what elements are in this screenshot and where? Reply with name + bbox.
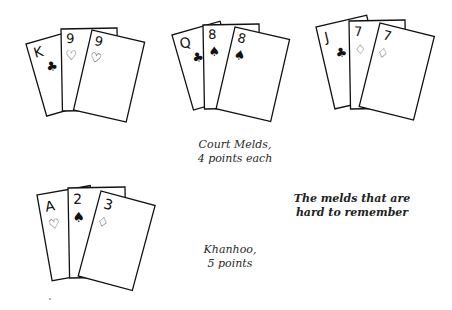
svg-text:7: 7 [354,24,363,39]
khanhoo-caption-line1: Khanhoo, [200,243,260,257]
court-melds-caption: Court Melds, 4 points each [190,138,280,166]
card-fan: K ♣ 9 ♡ 9 ♡ [0,0,150,125]
card-fan: J ♣ 7 ♢ 7 ♢ [300,0,452,125]
speck [49,298,51,300]
svg-text:♠: ♠ [72,209,85,225]
meld-group-king-nines: K ♣ 9 ♡ 9 ♡ [0,0,150,125]
melds-title-line1: The melds that are [282,192,422,206]
meld-group-queen-eights: Q ♣ 8 ♠ 8 ♠ [150,0,300,125]
svg-text:♠: ♠ [208,44,220,59]
svg-text:♢: ♢ [354,42,366,57]
svg-text:2: 2 [73,191,82,207]
meld-group-jack-sevens: J ♣ 7 ♢ 7 ♢ [300,0,452,125]
melds-title-line2: hard to remember [282,206,422,220]
svg-text:8: 8 [208,27,217,42]
court-melds-caption-line2: 4 points each [190,152,280,166]
court-melds-caption-line1: Court Melds, [190,138,280,152]
khanhoo-caption: Khanhoo, 5 points [200,243,260,271]
svg-text:9: 9 [66,31,75,46]
card-fan: A ♡ 2 ♠ 3 ♢ [0,170,180,310]
card-fan: Q ♣ 8 ♠ 8 ♠ [150,0,300,125]
melds-title: The melds that are hard to remember [282,192,422,220]
svg-text:♡: ♡ [65,48,77,63]
khanhoo-caption-line2: 5 points [200,257,260,271]
meld-group-khanhoo: A ♡ 2 ♠ 3 ♢ [0,170,180,310]
